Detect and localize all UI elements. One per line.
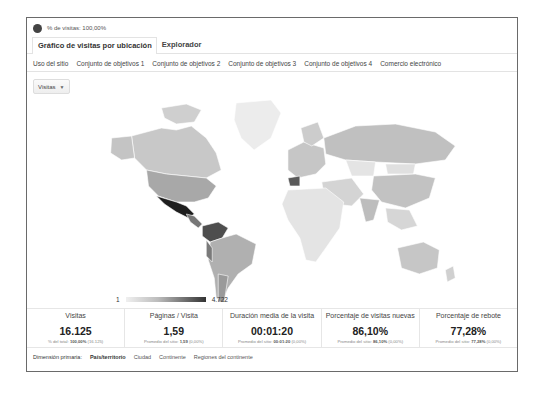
region-india xyxy=(360,198,380,222)
region-kazakhstan xyxy=(346,160,376,176)
metric-avg-duration[interactable]: Duración media de la visita 00:01:20 Pro… xyxy=(223,309,321,347)
metric-bounce-rate[interactable]: Porcentaje de rebote 77,28% Promedio del… xyxy=(420,309,517,347)
metric-pages-per-visit[interactable]: Páginas / Visita 1,59 Promedio del sitio… xyxy=(125,309,223,347)
metric-label: Duración media de la visita xyxy=(223,312,320,319)
metric-dropdown[interactable]: Visitas ▼ xyxy=(33,79,70,94)
subtab-goal-set-3[interactable]: Conjunto de objetivos 3 xyxy=(228,60,296,67)
metric-value: 1,59 xyxy=(125,325,222,337)
subtab-goal-set-1[interactable]: Conjunto de objetivos 1 xyxy=(76,60,144,67)
segment-label: % de visitas: 100,00% xyxy=(47,25,106,31)
metric-label: Porcentaje de rebote xyxy=(420,312,517,319)
metric-sub: Promedio del sitio: 86,10% (0,00%) xyxy=(322,339,419,344)
dimension-country[interactable]: País/territorio xyxy=(90,354,126,360)
region-greenland xyxy=(234,100,281,150)
map-legend: 1 4.722 xyxy=(116,294,228,304)
subtab-ecommerce[interactable]: Comercio electrónico xyxy=(380,60,441,67)
primary-dimension-bar: Dimensión primaria: País/territorio Ciud… xyxy=(33,354,253,360)
subtab-site-usage[interactable]: Uso del sitio xyxy=(33,60,68,67)
caret-down-icon: ▼ xyxy=(60,84,65,90)
dimension-continent[interactable]: Continente xyxy=(159,354,186,360)
region-south-america xyxy=(208,234,256,302)
subtab-goal-set-2[interactable]: Conjunto de objetivos 2 xyxy=(152,60,220,67)
dimension-city[interactable]: Ciudad xyxy=(134,354,151,360)
metric-value: 16.125 xyxy=(27,325,124,337)
metric-visits[interactable]: Visitas 16.125 % del total: 100,00% (16.… xyxy=(27,309,125,347)
analytics-panel: % de visitas: 100,00% Gráfico de visitas… xyxy=(26,17,518,372)
metric-label: Páginas / Visita xyxy=(125,312,222,319)
metrics-summary: Visitas 16.125 % del total: 100,00% (16.… xyxy=(27,308,517,348)
legend-max: 4.722 xyxy=(212,296,228,303)
segment-indicator[interactable]: % de visitas: 100,00% xyxy=(33,21,106,35)
metric-sub: Promedio del sitio: 77,28% (0,00%) xyxy=(420,339,517,344)
dimension-subcontinent[interactable]: Regiones del continente xyxy=(194,354,253,360)
region-alaska xyxy=(111,136,135,160)
region-china xyxy=(372,174,436,208)
metric-group-tabs: Uso del sitio Conjunto de objetivos 1 Co… xyxy=(27,55,517,72)
metric-sub: Promedio del sitio: 1,59 (0,00%) xyxy=(125,339,222,344)
region-scandinavia xyxy=(301,122,324,146)
region-russia xyxy=(324,124,455,164)
region-canada xyxy=(132,126,222,178)
legend-gradient xyxy=(126,297,206,302)
metric-label: Porcentaje de visitas nuevas xyxy=(322,312,419,319)
region-europe xyxy=(288,142,326,178)
metric-dropdown-value: Visitas xyxy=(38,84,56,90)
metric-sub: Promedio del sitio: 00:01:20 (0,00%) xyxy=(223,339,320,344)
region-australia xyxy=(397,242,439,274)
view-tabs: Gráfico de visitas por ubicación Explora… xyxy=(27,37,517,54)
metric-value: 00:01:20 xyxy=(223,325,320,337)
region-se-asia xyxy=(386,208,418,230)
world-map-svg xyxy=(27,98,517,306)
region-africa xyxy=(282,188,344,262)
world-map[interactable] xyxy=(27,98,517,306)
region-spain xyxy=(288,176,300,186)
metric-sub: % del total: 100,00% (16.125) xyxy=(27,339,124,344)
metric-value: 77,28% xyxy=(420,325,517,337)
metric-new-visits[interactable]: Porcentaje de visitas nuevas 86,10% Prom… xyxy=(322,309,420,347)
pie-segment-icon xyxy=(33,24,42,33)
metric-label: Visitas xyxy=(27,312,124,319)
tab-map-overlay[interactable]: Gráfico de visitas por ubicación xyxy=(32,37,157,54)
metric-value: 86,10% xyxy=(322,325,419,337)
tab-explorer[interactable]: Explorador xyxy=(157,37,206,54)
subtab-goal-set-4[interactable]: Conjunto de objetivos 4 xyxy=(304,60,372,67)
primary-dimension-label: Dimensión primaria: xyxy=(33,354,82,360)
legend-min: 1 xyxy=(116,296,120,303)
region-mongolia xyxy=(386,164,416,174)
